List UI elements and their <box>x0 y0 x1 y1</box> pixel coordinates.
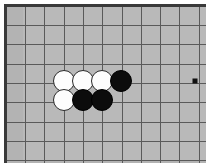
grid-line-vertical <box>179 7 180 163</box>
grid-line-vertical <box>44 7 45 163</box>
go-stone-black[interactable] <box>91 89 113 111</box>
board-surface[interactable] <box>7 7 206 163</box>
grid-line-vertical <box>160 7 161 163</box>
grid-line-horizontal <box>7 122 206 123</box>
grid-line-vertical <box>199 7 200 163</box>
grid-line-horizontal <box>7 25 206 26</box>
board-left-margin <box>7 7 23 163</box>
grid-line-horizontal <box>7 141 206 142</box>
grid-line-vertical <box>25 7 26 163</box>
board-frame <box>4 4 206 163</box>
go-board-screenshot <box>0 0 210 163</box>
grid-line-horizontal <box>7 64 206 65</box>
grid-line-horizontal <box>7 160 206 161</box>
grid-line-vertical <box>141 7 142 163</box>
go-stone-black[interactable] <box>110 70 132 92</box>
grid-line-horizontal <box>7 44 206 45</box>
star-point-icon <box>193 79 198 84</box>
